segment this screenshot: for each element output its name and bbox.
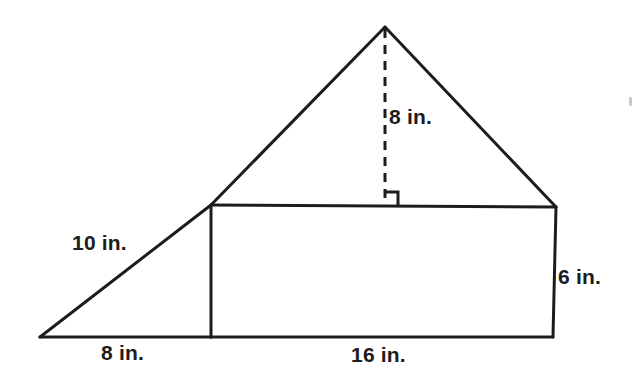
base-left-length-label: 8 in. xyxy=(101,342,144,363)
left-triangle-hypotenuse xyxy=(40,205,211,337)
slant-side-length-label: 10 in. xyxy=(72,232,127,253)
scan-artifact-mark xyxy=(629,97,632,106)
triangle-left-edge xyxy=(211,27,385,205)
altitude-length-label: 8 in. xyxy=(389,106,432,127)
rectangle-top-edge xyxy=(211,205,556,207)
base-right-length-label: 16 in. xyxy=(351,344,406,365)
right-side-length-label: 6 in. xyxy=(558,266,601,287)
right-angle-marker-icon xyxy=(385,192,398,205)
rectangle-right-edge xyxy=(553,207,556,337)
geometry-figure: 8 in. 10 in. 6 in. 8 in. 16 in. xyxy=(0,0,638,384)
geometry-drawing xyxy=(0,0,638,384)
